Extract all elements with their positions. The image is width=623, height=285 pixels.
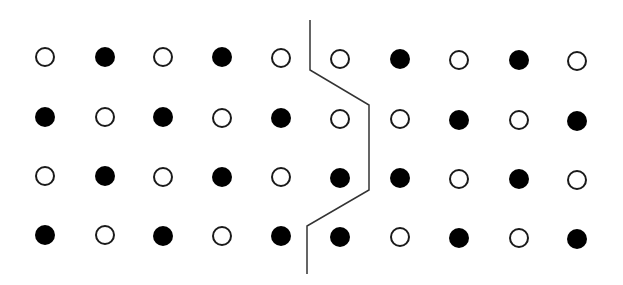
- filled-dot: [567, 111, 587, 131]
- dot-grid: [35, 47, 587, 249]
- filled-dot: [509, 169, 529, 189]
- open-dot: [272, 168, 290, 186]
- open-dot: [272, 49, 290, 67]
- open-dot: [568, 171, 586, 189]
- filled-dot: [449, 228, 469, 248]
- diagram-canvas: [0, 0, 623, 285]
- filled-dot: [567, 229, 587, 249]
- filled-dot: [330, 168, 350, 188]
- filled-dot: [390, 49, 410, 69]
- open-dot: [96, 108, 114, 126]
- filled-dot: [449, 110, 469, 130]
- open-dot: [36, 167, 54, 185]
- filled-dot: [95, 166, 115, 186]
- filled-dot: [271, 108, 291, 128]
- open-dot: [36, 48, 54, 66]
- open-dot: [450, 51, 468, 69]
- filled-dot: [153, 226, 173, 246]
- filled-dot: [95, 47, 115, 67]
- filled-dot: [212, 47, 232, 67]
- filled-dot: [330, 227, 350, 247]
- open-dot: [510, 111, 528, 129]
- open-dot: [213, 109, 231, 127]
- open-dot: [391, 110, 409, 128]
- open-dot: [391, 228, 409, 246]
- dot-lattice-diagram: [0, 0, 623, 285]
- open-dot: [213, 227, 231, 245]
- open-dot: [331, 50, 349, 68]
- filled-dot: [153, 107, 173, 127]
- filled-dot: [35, 225, 55, 245]
- filled-dot: [509, 50, 529, 70]
- open-dot: [331, 110, 349, 128]
- open-dot: [154, 48, 172, 66]
- open-dot: [154, 168, 172, 186]
- filled-dot: [35, 107, 55, 127]
- open-dot: [96, 226, 114, 244]
- open-dot: [510, 229, 528, 247]
- filled-dot: [390, 168, 410, 188]
- filled-dot: [271, 226, 291, 246]
- filled-dot: [212, 167, 232, 187]
- open-dot: [450, 170, 468, 188]
- open-dot: [568, 52, 586, 70]
